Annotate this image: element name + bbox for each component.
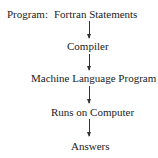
step-answers: Answers — [71, 140, 110, 152]
step-compiler: Compiler — [67, 40, 109, 52]
arrow-down-icon — [89, 119, 90, 136]
step-runs-on-computer: Runs on Computer — [51, 106, 134, 118]
step-fortran-statements: Fortran Statements — [54, 8, 137, 20]
arrow-down-icon — [89, 86, 90, 103]
program-label: Program: — [7, 8, 48, 20]
step-machine-language-program: Machine Language Program — [31, 72, 156, 84]
arrow-down-icon — [89, 21, 90, 38]
arrow-down-icon — [89, 54, 90, 70]
